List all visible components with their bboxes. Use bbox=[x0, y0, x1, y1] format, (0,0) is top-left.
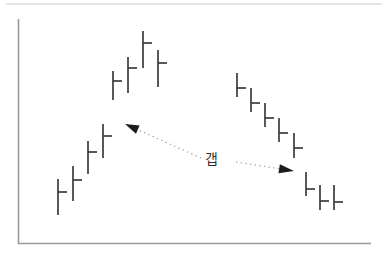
arrow-dotted-shaft bbox=[236, 162, 279, 169]
arrow-dotted-shaft bbox=[138, 130, 201, 158]
axes-lines bbox=[19, 19, 372, 244]
chart-svg bbox=[0, 0, 382, 261]
chart-area: 갭 bbox=[0, 0, 382, 261]
arrow-head-icon bbox=[125, 124, 140, 134]
gap-label: 갭 bbox=[205, 150, 218, 168]
up-gap-arrow bbox=[125, 124, 201, 158]
bar-group-uptrend-before-gap bbox=[58, 124, 112, 215]
bar-group-downtrend-after-gap bbox=[306, 172, 343, 210]
bar-group-downtrend-before-gap bbox=[237, 73, 303, 158]
arrow-head-icon bbox=[278, 164, 294, 173]
down-gap-arrow bbox=[236, 162, 294, 173]
bar-group-uptrend-after-gap bbox=[113, 31, 167, 100]
